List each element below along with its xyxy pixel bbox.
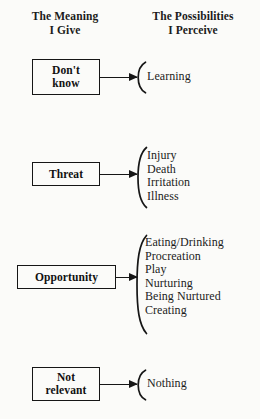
meaning-box-threat-line1: Threat (49, 168, 83, 181)
column-header-meaning: The Meaning I Give (4, 10, 126, 37)
possibility-item: Nurturing (145, 277, 224, 291)
brace-dont-know (136, 61, 147, 94)
column-header-meaning-line1: The Meaning (4, 10, 126, 24)
meaning-box-threat[interactable]: Threat (32, 162, 100, 186)
arrow-dont-know-to-learning (100, 70, 137, 85)
meaning-box-opportunity[interactable]: Opportunity (17, 265, 116, 289)
possibility-list-opportunity: Eating/Drinking Procreation Play Nurturi… (145, 236, 224, 318)
brace-icon (136, 369, 147, 401)
possibility-item: Illness (147, 190, 190, 204)
possibility-list-threat: Injury Death Irritation Illness (147, 149, 190, 203)
possibility-item: Being Nurtured (145, 290, 224, 304)
arrow-threat-to-possibilities (100, 167, 137, 182)
arrow-not-relevant-to-nothing (100, 377, 137, 392)
possibility-item: Learning (147, 70, 191, 84)
arrow-opportunity-to-possibilities (116, 270, 137, 285)
brace-not-relevant (136, 369, 147, 401)
meaning-box-dont-know[interactable]: Don't know (32, 59, 100, 95)
possibility-item: Death (147, 163, 190, 177)
meaning-box-not-relevant-line1: Not (46, 371, 87, 384)
column-header-meaning-line2: I Give (4, 24, 126, 38)
column-header-possibilities-line1: The Possibilities (130, 10, 256, 24)
meaning-box-not-relevant-line2: relevant (46, 384, 87, 397)
possibility-list-dont-know: Learning (147, 70, 191, 84)
possibility-item: Play (145, 263, 224, 277)
meaning-box-dont-know-line1: Don't (52, 64, 80, 77)
possibility-item: Procreation (145, 250, 224, 264)
possibility-item: Eating/Drinking (145, 236, 224, 250)
column-header-possibilities-line2: I Perceive (130, 24, 256, 38)
possibility-list-not-relevant: Nothing (147, 377, 187, 391)
meaning-box-opportunity-line1: Opportunity (35, 271, 98, 284)
brace-icon (136, 61, 147, 94)
meaning-box-not-relevant[interactable]: Not relevant (32, 367, 100, 401)
meaning-box-dont-know-line2: know (52, 77, 80, 90)
column-header-possibilities: The Possibilities I Perceive (130, 10, 256, 37)
possibility-item: Creating (145, 304, 224, 318)
possibility-item: Irritation (147, 176, 190, 190)
possibility-item: Injury (147, 149, 190, 163)
possibility-item: Nothing (147, 377, 187, 391)
diagram-canvas: The Meaning I Give The Possibilities I P… (0, 0, 260, 419)
